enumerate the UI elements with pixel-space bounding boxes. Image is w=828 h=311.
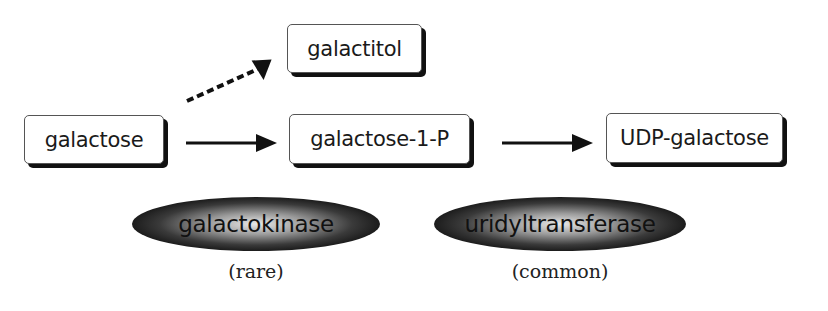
frequency-common: (common) xyxy=(500,260,620,282)
enzyme-galactokinase: galactokinase xyxy=(132,197,380,251)
enzyme-galactokinase-label: galactokinase xyxy=(178,211,334,237)
enzyme-uridyltransferase-label: uridyltransferase xyxy=(465,211,656,237)
pathway-arrows xyxy=(0,0,828,311)
enzyme-uridyltransferase: uridyltransferase xyxy=(434,197,686,251)
frequency-rare: (rare) xyxy=(196,260,316,282)
arrow-to-galactose-1-p xyxy=(186,134,277,152)
dashed-arrow-to-galactitol xyxy=(187,59,273,101)
arrow-to-udp-galactose xyxy=(502,134,593,152)
